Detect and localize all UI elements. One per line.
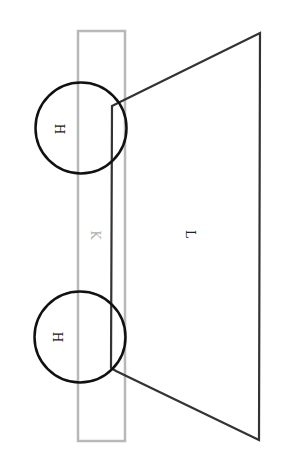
label-h-bottom: H xyxy=(50,332,64,342)
label-l: L xyxy=(183,230,197,238)
label-k: K xyxy=(88,231,102,241)
label-h-top: H xyxy=(52,124,66,134)
diagram-canvas: H H K L xyxy=(0,0,283,461)
